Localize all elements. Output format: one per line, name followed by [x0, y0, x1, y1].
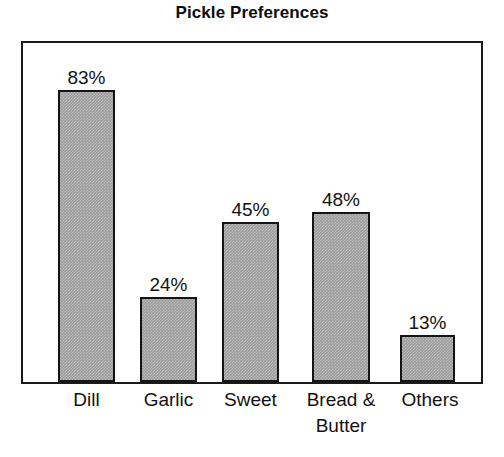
x-label-others-line-1: Others — [385, 387, 475, 413]
x-label-bread-and-butter-line-1: Bread & — [293, 387, 389, 413]
x-axis-labels: Dill Garlic Sweet Bread & Butter Others — [21, 387, 483, 457]
bar-group-bread-and-butter: 48% — [312, 212, 370, 382]
bar-group-dill: 83% — [58, 90, 115, 382]
bar-rect-dill — [58, 90, 115, 382]
bar-chart-figure: Pickle Preferences 83% 24% 45% 48% 13% D… — [0, 0, 504, 457]
x-label-garlic: Garlic — [124, 387, 213, 413]
bar-group-garlic: 24% — [140, 297, 197, 382]
bars-layer: 83% 24% 45% 48% 13% — [21, 41, 483, 384]
x-label-sweet: Sweet — [206, 387, 295, 413]
bar-value-dill: 83% — [67, 68, 105, 87]
bar-group-others: 13% — [400, 335, 455, 382]
x-label-bread-and-butter: Bread & Butter — [293, 387, 389, 439]
x-label-bread-and-butter-line-2: Butter — [293, 413, 389, 439]
bar-value-sweet: 45% — [231, 200, 269, 219]
bar-group-sweet: 45% — [222, 222, 279, 382]
bar-rect-bread-and-butter — [312, 212, 370, 382]
x-label-garlic-line-1: Garlic — [124, 387, 213, 413]
bar-value-others: 13% — [408, 313, 446, 332]
x-label-others: Others — [385, 387, 475, 413]
chart-title: Pickle Preferences — [0, 3, 504, 23]
bar-rect-sweet — [222, 222, 279, 382]
bar-rect-others — [400, 335, 455, 382]
bar-value-garlic: 24% — [149, 275, 187, 294]
x-label-sweet-line-1: Sweet — [206, 387, 295, 413]
bar-rect-garlic — [140, 297, 197, 382]
bar-value-bread-and-butter: 48% — [322, 190, 360, 209]
x-label-dill-line-1: Dill — [42, 387, 131, 413]
x-label-dill: Dill — [42, 387, 131, 413]
